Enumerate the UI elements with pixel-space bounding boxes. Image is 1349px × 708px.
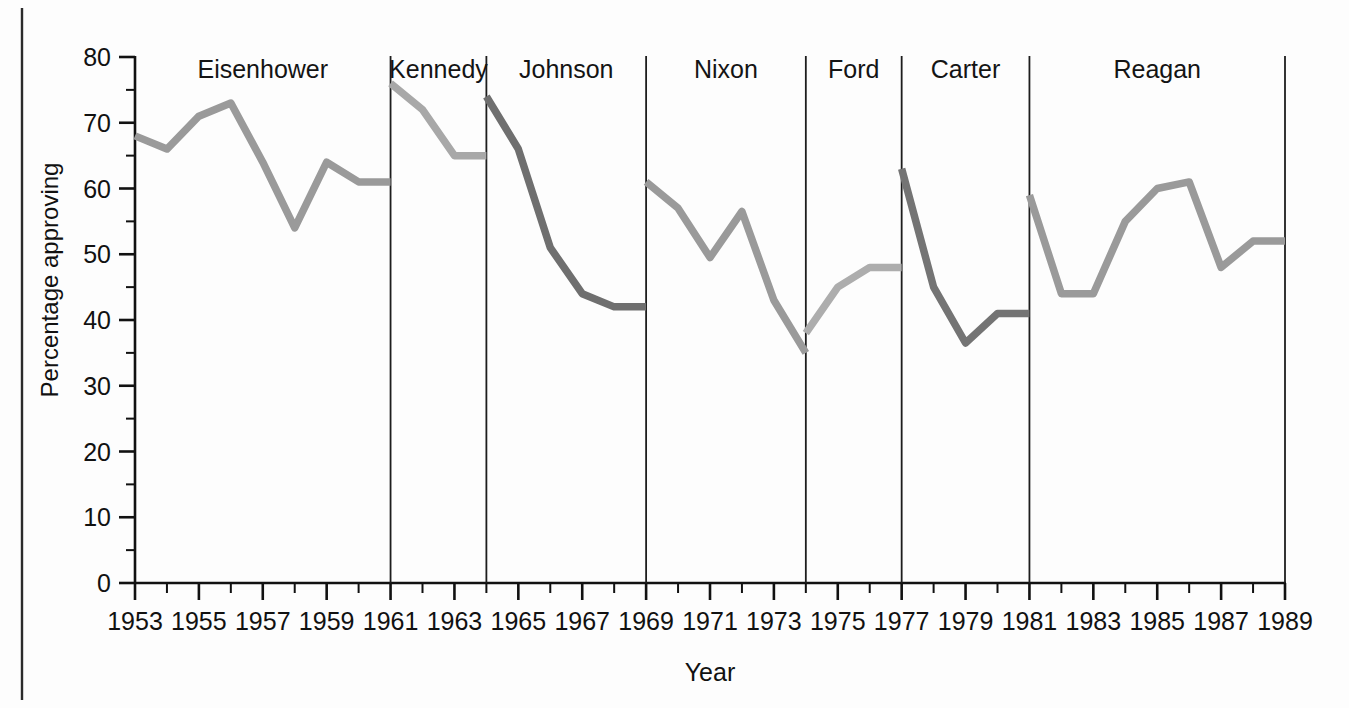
term-divider-lines <box>391 56 1285 583</box>
approval-rating-line-chart: 01020304050607080 1953195519571959196119… <box>0 0 1349 708</box>
x-tick-label: 1987 <box>1193 607 1249 635</box>
x-tick-label: 1983 <box>1066 607 1122 635</box>
figure-panel: 01020304050607080 1953195519571959196119… <box>0 0 1349 708</box>
president-label-johnson: Johnson <box>519 55 614 83</box>
y-tick-label: 10 <box>83 503 111 531</box>
x-tick-label: 1975 <box>810 607 866 635</box>
x-tick-label: 1971 <box>682 607 738 635</box>
series-line-kennedy <box>391 83 487 155</box>
x-tick-label: 1989 <box>1257 607 1313 635</box>
president-label-ford: Ford <box>828 55 879 83</box>
x-tick-label: 1961 <box>363 607 419 635</box>
x-tick-label: 1973 <box>746 607 802 635</box>
y-tick-label: 80 <box>83 43 111 71</box>
x-tick-label: 1985 <box>1129 607 1185 635</box>
y-tick-label: 70 <box>83 109 111 137</box>
president-label-eisenhower: Eisenhower <box>197 55 328 83</box>
x-tick-label: 1963 <box>427 607 483 635</box>
x-tick-label: 1965 <box>491 607 547 635</box>
x-tick-label: 1969 <box>618 607 674 635</box>
president-label-reagan: Reagan <box>1113 55 1201 83</box>
y-axis-title: Percentage approving <box>36 163 63 398</box>
y-tick-label: 20 <box>83 438 111 466</box>
y-tick-label: 0 <box>97 569 111 597</box>
president-label-carter: Carter <box>931 55 1000 83</box>
x-axis: 1953195519571959196119631965196719691971… <box>107 583 1313 635</box>
president-label-nixon: Nixon <box>694 55 758 83</box>
president-labels: EisenhowerKennedyJohnsonNixonFordCarterR… <box>197 55 1201 83</box>
series-line-reagan <box>1029 182 1285 294</box>
x-tick-label: 1957 <box>235 607 291 635</box>
series-line-carter <box>902 169 1030 343</box>
x-tick-label: 1955 <box>171 607 227 635</box>
x-tick-label: 1981 <box>1002 607 1058 635</box>
x-tick-label: 1959 <box>299 607 355 635</box>
y-tick-label: 40 <box>83 306 111 334</box>
x-axis-title: Year <box>685 658 736 686</box>
y-tick-label: 30 <box>83 372 111 400</box>
x-tick-label: 1967 <box>554 607 610 635</box>
series-line-ford <box>806 267 902 333</box>
y-tick-label: 50 <box>83 240 111 268</box>
y-tick-label: 60 <box>83 175 111 203</box>
president-label-kennedy: Kennedy <box>389 55 488 83</box>
x-tick-label: 1977 <box>874 607 930 635</box>
series-lines <box>135 83 1285 353</box>
series-line-johnson <box>486 96 646 306</box>
x-tick-label: 1979 <box>938 607 994 635</box>
y-axis: 01020304050607080 <box>83 43 135 597</box>
x-tick-label: 1953 <box>107 607 163 635</box>
series-line-nixon <box>646 182 806 353</box>
series-line-eisenhower <box>135 103 391 228</box>
